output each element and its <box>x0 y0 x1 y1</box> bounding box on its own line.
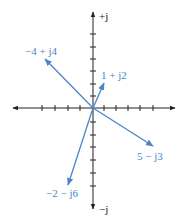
vector-5-minus-j3 <box>93 108 153 146</box>
vector-neg2-minus-j6 <box>68 108 93 185</box>
negative-imaginary-label: −j <box>99 203 108 215</box>
label-1-plus-j2: 1 + j2 <box>101 69 127 81</box>
positive-imaginary-label: +j <box>99 10 108 22</box>
complex-plane-diagram: +j −j −4 + j4 1 + j2 5 − j3 −2 − j6 <box>0 0 185 217</box>
label-neg2-minus-j6: −2 − j6 <box>46 187 78 199</box>
vector-neg4-plus-j4 <box>45 59 93 108</box>
label-neg4-plus-j4: −4 + j4 <box>25 45 57 57</box>
label-5-minus-j3: 5 − j3 <box>137 150 163 162</box>
phasor-vectors <box>45 59 153 185</box>
